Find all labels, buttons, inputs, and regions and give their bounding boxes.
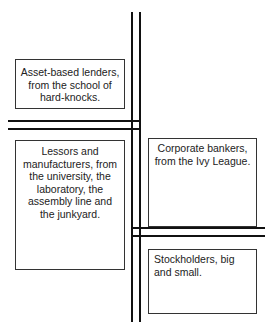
vertical-divider-left-rail	[131, 12, 133, 322]
left-horizontal-divider-bottom-rail	[8, 128, 141, 130]
vertical-divider-right-rail	[139, 12, 141, 322]
left-horizontal-divider-top-rail	[8, 120, 141, 122]
quadrant-box-asset-based-lenders: Asset-based lenders, from the school of …	[15, 59, 125, 109]
quadrant-box-corporate-bankers: Corporate bankers, from the Ivy League.	[148, 138, 257, 227]
right-horizontal-divider-top-rail	[131, 227, 265, 229]
right-horizontal-divider-bottom-rail	[131, 235, 265, 237]
box-text: Corporate bankers, from the Ivy League.	[155, 142, 251, 167]
quadrant-box-stockholders: Stockholders, big and small.	[148, 249, 257, 314]
box-text: Stockholders, big and small.	[154, 253, 235, 278]
box-text: Asset-based lenders, from the school of …	[21, 66, 120, 103]
box-text: Lessors and manufacturers, from the univ…	[23, 145, 117, 220]
quadrant-box-lessors-manufacturers: Lessors and manufacturers, from the univ…	[15, 140, 125, 270]
